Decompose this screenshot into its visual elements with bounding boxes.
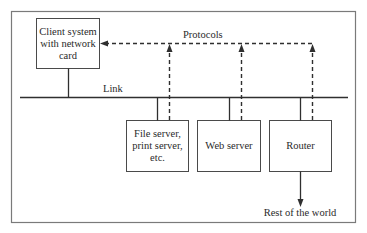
protocols-label: Protocols [183,29,223,40]
web-server-label: Web server [205,140,253,151]
link-label: Link [103,83,124,94]
client-label-line1: Client system [39,26,96,37]
file-server-label-line1: File server, [134,128,181,139]
router-label: Router [286,140,315,151]
client-label-line3: card [59,50,78,61]
rest-of-world-label: Rest of the world [264,207,337,218]
client-label-line2: with network [40,38,96,49]
file-server-label-line2: print server, [132,140,182,151]
file-server-label-line3: etc. [150,152,165,163]
network-diagram: Link Client system with network card Fil… [0,0,367,233]
